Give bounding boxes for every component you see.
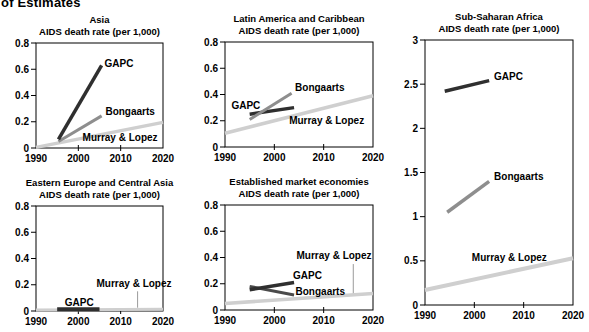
series-label-murray-lopez: Murray & Lopez [297,250,372,261]
series-label-bongaarts: Bongaarts [296,286,346,297]
y-tick-label: 0.6 [15,227,29,238]
x-tick-label: 1990 [25,153,48,164]
x-tick-label: 1990 [25,316,48,327]
x-tick-label: 2000 [263,152,286,163]
y-tick-label: 0 [412,300,418,311]
y-tick-label: 0 [212,305,218,316]
y-tick-label: 0 [23,143,29,154]
y-tick-label: 0.8 [15,38,29,49]
series-label-bongaarts: Bongaarts [105,106,155,117]
chart-title: Established market economies [229,176,368,187]
x-tick-label: 1990 [214,152,237,163]
chart-eastern-europe-and-central-asia: Eastern Europe and Central AsiaAIDS deat… [0,171,200,332]
series-label-gapc: GAPC [293,270,322,281]
chart-subtitle: AIDS death rate (per 1,000) [39,26,160,37]
x-tick-label: 2020 [152,153,175,164]
series-line-bongaarts [447,181,489,212]
x-tick-label: 2000 [263,315,286,326]
chart-title: Sub-Saharan Africa [455,11,544,22]
y-tick-label: 0.4 [204,89,218,100]
y-tick-label: 0 [212,142,218,153]
y-tick-label: 0.6 [204,226,218,237]
chart-subtitle: AIDS death rate (per 1,000) [239,188,360,199]
chart-title: Latin America and Caribbean [233,13,364,24]
x-tick-label: 2020 [362,152,385,163]
x-tick-label: 2020 [562,310,585,321]
x-tick-label: 2010 [513,310,536,321]
y-tick-label: 0.5 [404,255,418,266]
chart-title: Eastern Europe and Central Asia [26,177,174,188]
y-tick-label: 0.6 [204,63,218,74]
y-tick-label: 0.4 [15,90,29,101]
series-label-murray-lopez: Murray & Lopez [472,252,547,263]
series-label-bongaarts: Bongaarts [295,82,345,93]
x-tick-label: 1990 [414,310,437,321]
series-label-bongaarts: Bongaarts [494,171,544,182]
x-tick-label: 2010 [110,316,133,327]
series-line-murray-lopez [425,258,573,290]
chart-asia: AsiaAIDS death rate (per 1,000)00.20.40.… [0,8,200,168]
figure-comparison-of-estimates: of Estimates AsiaAIDS death rate (per 1,… [0,0,589,332]
series-label-murray-lopez: Murray & Lopez [289,115,364,126]
y-tick-label: 1.5 [404,167,418,178]
series-line-gapc [445,81,489,92]
y-tick-label: 0.4 [204,252,218,263]
series-line-gapc [250,282,294,289]
series-label-gapc: GAPC [65,297,94,308]
chart-canvas: Eastern Europe and Central AsiaAIDS deat… [0,171,200,332]
chart-subtitle: AIDS death rate (per 1,000) [39,189,160,200]
x-tick-label: 2000 [67,153,90,164]
chart-established-market-economies: Established market economiesAIDS death r… [195,170,390,332]
y-tick-label: 0.8 [204,200,218,211]
y-tick-label: 2 [412,123,418,134]
x-tick-label: 1990 [214,315,237,326]
x-tick-label: 2020 [362,315,385,326]
x-tick-label: 2000 [463,310,486,321]
x-tick-label: 2020 [152,316,175,327]
series-label-gapc: GAPC [494,71,523,82]
y-tick-label: 0.6 [15,64,29,75]
y-tick-label: 1 [412,211,418,222]
series-label-murray-lopez: Murray & Lopez [83,132,158,143]
series-label-murray-lopez: Murray & Lopez [97,278,172,289]
x-tick-label: 2010 [313,152,336,163]
y-tick-label: 0.2 [204,115,218,126]
chart-canvas: Latin America and CaribbeanAIDS death ra… [195,7,390,168]
x-tick-label: 2010 [110,153,133,164]
plot-frame [225,42,373,147]
chart-title: Asia [89,14,110,25]
chart-canvas: AsiaAIDS death rate (per 1,000)00.20.40.… [0,8,200,168]
y-tick-label: 3 [412,35,418,46]
chart-subtitle: AIDS death rate (per 1,000) [439,23,560,34]
y-tick-label: 0 [23,306,29,317]
chart-canvas: Established market economiesAIDS death r… [195,170,390,332]
y-tick-label: 0.2 [204,278,218,289]
y-tick-label: 0.8 [204,37,218,48]
y-tick-label: 0.8 [15,201,29,212]
series-label-gapc: GAPC [105,58,134,69]
x-tick-label: 2010 [313,315,336,326]
chart-sub-saharan-africa: Sub-Saharan AfricaAIDS death rate (per 1… [390,5,589,332]
series-label-gapc: GAPC [231,100,260,111]
y-tick-label: 0.2 [15,279,29,290]
x-tick-label: 2000 [67,316,90,327]
y-tick-label: 2.5 [404,79,418,90]
chart-canvas: Sub-Saharan AfricaAIDS death rate (per 1… [390,5,589,332]
chart-subtitle: AIDS death rate (per 1,000) [239,25,360,36]
y-tick-label: 0.4 [15,253,29,264]
plot-frame [36,206,163,311]
chart-latin-america-and-caribbean: Latin America and CaribbeanAIDS death ra… [195,7,390,168]
y-tick-label: 0.2 [15,116,29,127]
